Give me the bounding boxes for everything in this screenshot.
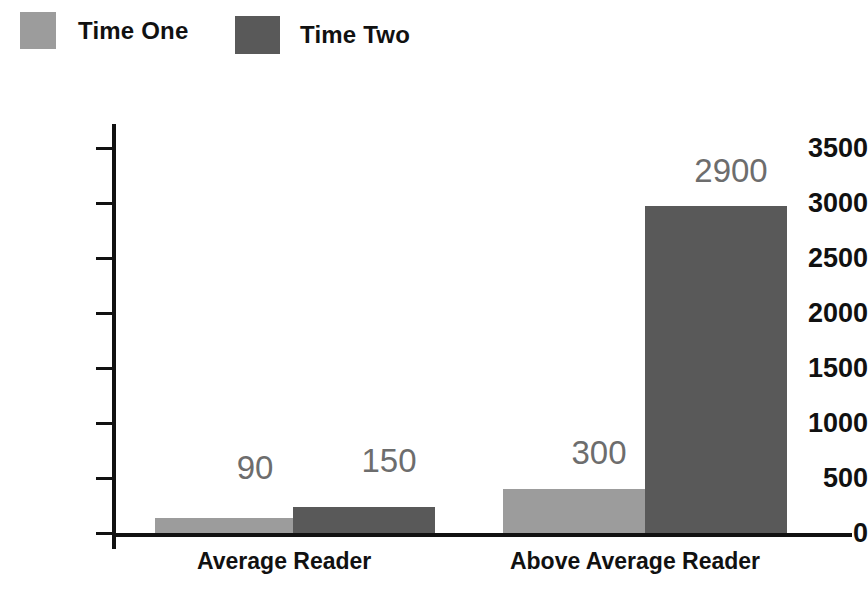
y-axis-tick bbox=[96, 532, 114, 535]
y-axis-tick bbox=[96, 422, 114, 425]
y-axis-tick-label: 2500 bbox=[776, 243, 868, 274]
bar bbox=[155, 518, 293, 533]
y-axis-tick-label: 0 bbox=[776, 518, 868, 549]
y-axis-tick bbox=[96, 312, 114, 315]
x-axis-category-label: Average Reader bbox=[197, 548, 337, 575]
y-axis-tick bbox=[96, 202, 114, 205]
y-axis-tick-label: 2000 bbox=[776, 298, 868, 329]
bar bbox=[645, 206, 787, 533]
y-axis-tick bbox=[96, 147, 114, 150]
x-axis-line bbox=[112, 533, 852, 537]
x-axis-category-label: Above Average Reader bbox=[489, 548, 781, 575]
bar-value-label: 90 bbox=[186, 449, 324, 487]
bar bbox=[293, 507, 435, 533]
bar-value-label: 2900 bbox=[660, 152, 802, 190]
y-axis-tick-label: 1000 bbox=[776, 408, 868, 439]
y-axis-tick-label: 3000 bbox=[776, 188, 868, 219]
y-axis-line bbox=[112, 124, 116, 549]
bar-value-label: 150 bbox=[318, 442, 460, 480]
bar-chart: Time One Time Two 0500100015002000250030… bbox=[0, 0, 868, 596]
plot-area: 0500100015002000250030003500 90150300290… bbox=[0, 0, 868, 596]
y-axis-tick-label: 1500 bbox=[776, 353, 868, 384]
y-axis-tick bbox=[96, 257, 114, 260]
y-axis-tick bbox=[96, 477, 114, 480]
y-axis-tick bbox=[96, 367, 114, 370]
bar bbox=[503, 489, 645, 533]
y-axis-tick-label: 500 bbox=[776, 463, 868, 494]
